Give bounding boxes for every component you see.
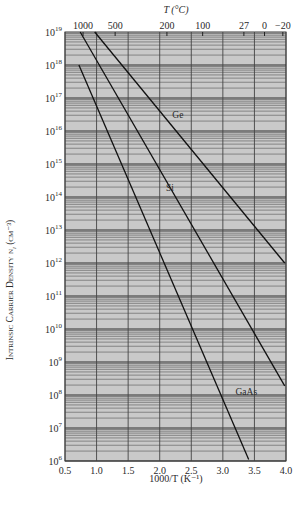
top-tick-label: 27 — [239, 20, 249, 31]
top-tick-label: 200 — [159, 20, 174, 31]
y-axis-title-text: Intrinsic Carrier Density n — [5, 249, 15, 360]
x-tick-label: 3.0 — [217, 465, 230, 476]
x-tick-label: 0.5 — [59, 465, 72, 476]
y-tick-label: 1011 — [45, 289, 62, 302]
bottom-axis-title: 1000/T (K⁻¹) — [149, 473, 202, 485]
y-tick-label: 107 — [49, 421, 63, 434]
y-axis-title: Intrinsic Carrier Density ni (cm⁻³) — [5, 220, 18, 361]
y-tick-label: 1018 — [45, 58, 63, 71]
y-tick-label: 1019 — [45, 25, 63, 38]
x-tick-label: 1.5 — [122, 465, 135, 476]
x-tick-label: 4.0 — [280, 465, 293, 476]
top-tick-label: 500 — [108, 20, 123, 31]
label-gaas: GaAs — [235, 387, 257, 397]
y-tick-label: 108 — [49, 388, 63, 401]
label-si: Si — [166, 183, 174, 193]
top-tick-label: 100 — [195, 20, 210, 31]
x-tick-label: 3.5 — [248, 465, 261, 476]
y-tick-label: 1015 — [45, 157, 63, 170]
label-ge: Ge — [172, 110, 183, 120]
y-tick-label: 109 — [49, 355, 63, 368]
y-tick-labels: 1019101810171016101510141013101210111010… — [45, 25, 63, 467]
svg-text:Intrinsic Carrier Density ni (: Intrinsic Carrier Density ni (cm⁻³) — [5, 220, 18, 361]
top-tick-label: −20 — [275, 20, 291, 31]
top-tick-label: 0 — [262, 20, 267, 31]
top-axis-title: T (°C) — [163, 4, 189, 16]
y-tick-label: 1010 — [45, 322, 63, 335]
y-tick-label: 1014 — [45, 190, 63, 203]
y-tick-label: 1013 — [45, 223, 63, 236]
y-tick-label: 1016 — [45, 124, 63, 137]
x-tick-label: 1.0 — [90, 465, 103, 476]
carrier-density-chart: GeSiGaAs 1019101810171016101510141013101… — [0, 0, 306, 506]
y-tick-label: 1012 — [45, 256, 63, 269]
y-axis-unit: (cm⁻³) — [5, 220, 16, 245]
y-tick-label: 1017 — [45, 91, 63, 104]
top-tick-label: 1000 — [73, 20, 93, 31]
